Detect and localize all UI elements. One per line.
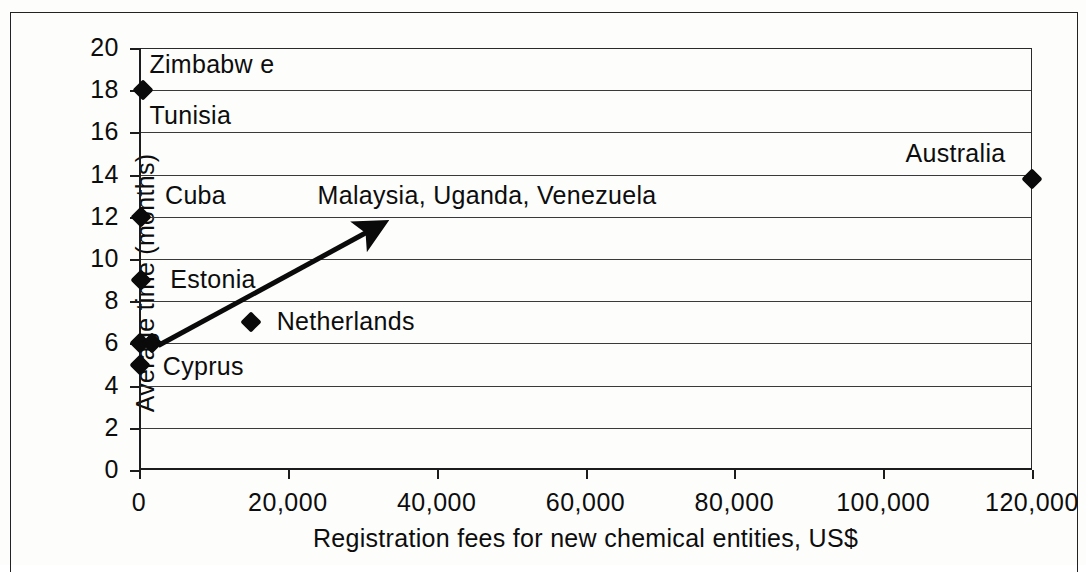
- y-axis-tick-label: 4: [105, 373, 119, 398]
- gridline: [139, 175, 1032, 176]
- point-label: Netherlands: [277, 309, 415, 334]
- x-axis-tick: [1032, 470, 1034, 479]
- y-axis-tick: [130, 301, 139, 303]
- gridline: [139, 386, 1032, 387]
- gridline: [139, 428, 1032, 429]
- y-axis-tick-label: 14: [90, 162, 119, 187]
- y-axis-tick-label: 8: [105, 288, 119, 313]
- x-axis-tick: [883, 470, 885, 479]
- x-axis-tick: [288, 470, 290, 479]
- point-label: Malaysia, Uganda, Venezuela: [318, 183, 657, 208]
- y-axis-line: [139, 48, 141, 470]
- gridline: [139, 132, 1032, 133]
- y-axis-tick-label: 10: [90, 246, 119, 271]
- y-axis-tick-label: 6: [105, 330, 119, 355]
- top-axis-line: [139, 48, 1032, 49]
- y-axis-tick-label: 20: [90, 35, 119, 60]
- y-axis-tick-label: 16: [90, 119, 119, 144]
- y-axis-tick-label: 18: [90, 77, 119, 102]
- y-axis-tick: [130, 48, 139, 50]
- y-axis-tick: [130, 259, 139, 261]
- gridline: [139, 301, 1032, 302]
- x-axis-tick: [734, 470, 736, 479]
- x-axis-tick: [139, 470, 141, 479]
- gridline: [139, 259, 1032, 260]
- y-axis-tick-label: 2: [105, 415, 119, 440]
- y-axis-tick-label: 12: [90, 204, 119, 229]
- point-label: Estonia: [170, 267, 256, 292]
- gridline: [139, 217, 1032, 218]
- point-label: Australia: [905, 141, 1005, 166]
- y-axis-tick-label: 0: [105, 457, 119, 482]
- y-axis-tick: [130, 470, 139, 472]
- point-label: Tunisia: [149, 103, 231, 128]
- y-axis-tick: [130, 428, 139, 430]
- right-axis-line: [1031, 48, 1032, 470]
- y-axis-tick: [130, 175, 139, 177]
- x-axis-tick-label: 120,000: [922, 490, 1086, 515]
- x-axis-tick: [437, 470, 439, 479]
- y-axis-tick: [130, 386, 139, 388]
- point-label: Cyprus: [163, 354, 244, 379]
- gridline: [139, 90, 1032, 91]
- point-label: Zimbabw e: [149, 52, 274, 77]
- x-axis-title: Registration fees for new chemical entit…: [139, 524, 1032, 553]
- x-axis-tick: [586, 470, 588, 479]
- point-label: Cuba: [165, 183, 226, 208]
- plot-area: Zimbabw eTunisiaCubaMalaysia, Uganda, Ve…: [139, 48, 1032, 470]
- gridline: [139, 343, 1032, 344]
- y-axis-tick: [130, 132, 139, 134]
